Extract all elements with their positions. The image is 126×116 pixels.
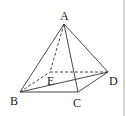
label-d: D [109,74,118,88]
edge-bd [20,72,108,92]
label-c: C [73,96,81,110]
label-a: A [60,9,69,23]
edge-ad [64,24,108,72]
edge-ae-hidden [50,24,64,72]
label-b: B [10,94,18,108]
pyramid-diagram: A B C D E [0,0,126,116]
label-e: E [47,74,54,88]
edge-ab [20,24,64,92]
